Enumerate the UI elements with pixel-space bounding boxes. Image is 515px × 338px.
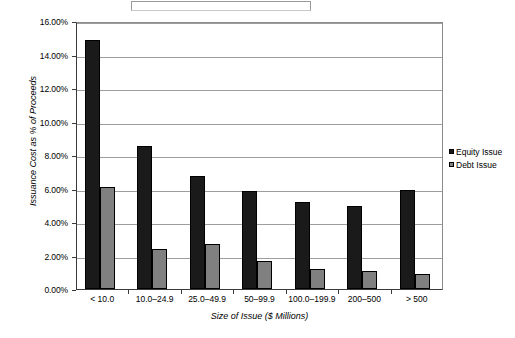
bar-equity: [295, 202, 310, 289]
bar-chart: Issuance Cost as % of Proceeds 0.00%2.00…: [0, 0, 515, 338]
bar-group: [234, 23, 286, 289]
y-axis-tick-marks: [0, 22, 76, 290]
x-axis-tick-label: < 10.0: [76, 294, 128, 304]
x-axis-tick-label: > 500: [391, 294, 443, 304]
x-axis-tick-labels: < 10.010.0–24.925.0–49.950–99.9100.0–199…: [76, 294, 443, 308]
x-axis-tick-label: 100.0–199.9: [286, 294, 338, 304]
bar-debt: [310, 269, 325, 289]
x-axis-tick-label: 200–500: [338, 294, 390, 304]
legend: Equity IssueDebt Issue: [449, 145, 513, 171]
x-axis-tick-label: 25.0–49.9: [181, 294, 233, 304]
bar-debt: [152, 249, 167, 289]
x-axis-tick-label: 50–99.9: [233, 294, 285, 304]
x-axis-tick-label: 10.0–24.9: [128, 294, 180, 304]
bar-equity: [347, 206, 362, 289]
legend-swatch-equity: [449, 149, 454, 154]
bar-group: [129, 23, 181, 289]
x-axis-title: Size of Issue ($ Millions): [76, 311, 443, 321]
bar-debt: [362, 271, 377, 289]
bar-equity: [137, 146, 152, 289]
bar-group: [339, 23, 391, 289]
chart-title-box: [131, 1, 311, 11]
bar-equity: [400, 190, 415, 289]
bar-group: [77, 23, 129, 289]
legend-label: Debt Issue: [456, 160, 497, 170]
legend-item: Debt Issue: [449, 158, 513, 171]
bar-equity: [242, 191, 257, 289]
bar-group: [392, 23, 444, 289]
bar-equity: [85, 40, 100, 289]
legend-item: Equity Issue: [449, 145, 513, 158]
bar-group: [182, 23, 234, 289]
bar-debt: [100, 187, 115, 289]
plot-area: [76, 22, 443, 290]
bar-equity: [190, 176, 205, 289]
bar-debt: [415, 274, 430, 289]
legend-swatch-debt: [449, 162, 454, 167]
bar-group: [287, 23, 339, 289]
bar-debt: [205, 244, 220, 289]
legend-label: Equity Issue: [456, 147, 502, 157]
bar-debt: [257, 261, 272, 289]
